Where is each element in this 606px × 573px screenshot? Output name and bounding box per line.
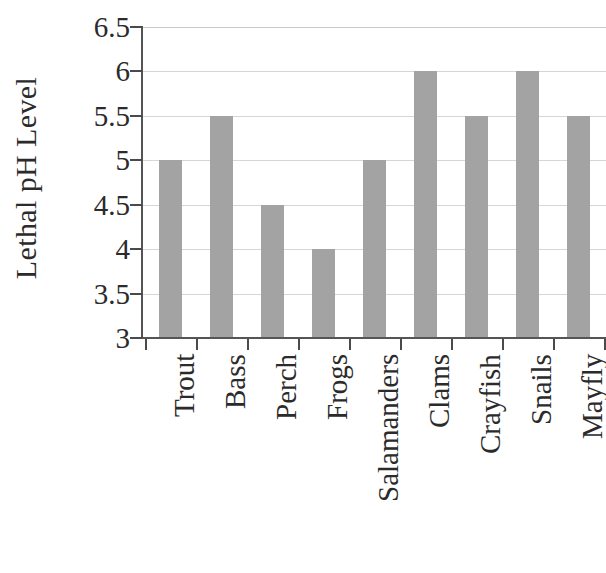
y-axis-tick — [130, 70, 142, 72]
x-axis-tick-label: Bass — [221, 354, 250, 409]
y-axis-tick — [130, 204, 142, 206]
x-axis-tick-labels: TroutBassPerchFrogsSalamandersClamsCrayf… — [0, 0, 606, 573]
bar-chart: Lethal pH Level 33.544.555.566.5 TroutBa… — [0, 0, 606, 573]
x-axis-tick — [196, 339, 198, 350]
x-axis-tick-label: Trout — [170, 354, 199, 417]
y-axis-tick — [130, 293, 142, 295]
x-axis-tick — [604, 339, 606, 350]
x-axis-tick — [247, 339, 249, 350]
x-axis-tick-label: Mayfly — [578, 354, 606, 439]
y-axis-tick — [130, 159, 142, 161]
x-axis-tick-label: Snails — [527, 354, 556, 425]
x-axis-tick — [553, 339, 555, 350]
x-axis-tick-label: Frogs — [323, 354, 352, 420]
x-axis-tick — [298, 339, 300, 350]
y-axis-tick — [130, 26, 142, 28]
x-axis-tick — [400, 339, 402, 350]
y-axis-tick — [130, 248, 142, 250]
x-axis-tick-label: Salamanders — [374, 354, 403, 502]
x-axis-tick — [451, 339, 453, 350]
x-axis-tick-label: Perch — [272, 354, 301, 420]
x-axis-tick-label: Clams — [425, 354, 454, 428]
x-axis-tick — [502, 339, 504, 350]
x-axis-tick-label: Crayfish — [476, 354, 505, 454]
y-axis-tick — [130, 115, 142, 117]
x-axis-tick — [145, 339, 147, 350]
x-axis-tick — [349, 339, 351, 350]
y-axis-tick — [130, 337, 142, 339]
